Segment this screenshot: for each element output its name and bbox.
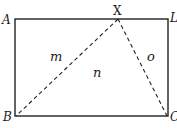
dashed-line-xc xyxy=(118,19,167,116)
label-point-a: A xyxy=(1,13,11,27)
label-point-c: C xyxy=(170,110,177,124)
geometry-diagram: A L B C X m n o xyxy=(0,0,177,128)
label-point-b: B xyxy=(2,110,12,124)
label-region-n: n xyxy=(93,65,101,80)
label-region-o: o xyxy=(147,49,155,64)
label-point-l: L xyxy=(169,11,177,25)
label-point-x: X xyxy=(113,4,122,18)
label-region-m: m xyxy=(50,49,62,64)
dashed-line-xb xyxy=(16,19,118,116)
rectangle-albc xyxy=(15,19,168,116)
